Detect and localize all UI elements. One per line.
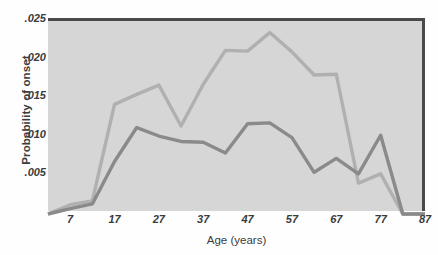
- x-tick-label: 67: [330, 213, 342, 225]
- y-tick-label: .010: [6, 128, 46, 140]
- x-tick-label: 17: [108, 213, 120, 225]
- x-tick-label: 57: [286, 213, 298, 225]
- x-tick-label: 47: [241, 213, 253, 225]
- y-tick-label: .020: [6, 51, 46, 63]
- x-tick-label: 77: [375, 213, 387, 225]
- x-tick-label: 37: [197, 213, 209, 225]
- x-tick-label: 87: [419, 213, 431, 225]
- plot-area: [48, 18, 425, 211]
- y-tick-label: .015: [6, 89, 46, 101]
- x-tick-label: 7: [67, 213, 73, 225]
- chart-figure: Probability of onset .025.020.015.010.00…: [0, 0, 438, 255]
- x-axis-title: Age (years): [48, 234, 425, 246]
- y-tick-label: .005: [6, 166, 46, 178]
- y-tick-label: .025: [6, 12, 46, 24]
- data-lines: [48, 21, 425, 214]
- x-axis-tick-labels: 71727374757677787: [0, 213, 438, 233]
- line-series-light: [48, 33, 425, 214]
- x-tick-label: 27: [153, 213, 165, 225]
- line-series-dark: [48, 123, 425, 214]
